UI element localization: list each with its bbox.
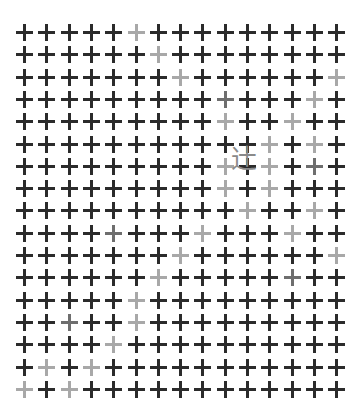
cross-mark [306, 292, 323, 309]
cross-vertical-bar [268, 136, 271, 153]
cross-vertical-bar [201, 158, 204, 175]
cross-vertical-bar [157, 381, 160, 398]
cross-vertical-bar [246, 113, 249, 130]
cross-mark [172, 24, 189, 41]
cross-mark [83, 180, 100, 197]
cross-mark [83, 225, 100, 242]
cross-mark [61, 202, 78, 219]
cross-mark [328, 359, 345, 376]
cross-vertical-bar [23, 113, 26, 130]
cross-vertical-bar [45, 180, 48, 197]
cross-vertical-bar [268, 292, 271, 309]
cross-vertical-bar [268, 158, 271, 175]
cross-mark [150, 381, 167, 398]
cross-vertical-bar [157, 336, 160, 353]
cross-vertical-bar [313, 359, 316, 376]
cross-vertical-bar [224, 180, 227, 197]
cross-mark [128, 336, 145, 353]
cross-vertical-bar [335, 381, 338, 398]
cross-mark [284, 158, 301, 175]
cross-mark [239, 69, 256, 86]
cross-mark [105, 113, 122, 130]
cross-vertical-bar [135, 91, 138, 108]
cross-mark [150, 225, 167, 242]
cross-vertical-bar [268, 336, 271, 353]
cross-mark [261, 225, 278, 242]
cross-mark [239, 91, 256, 108]
cross-mark [38, 269, 55, 286]
cross-mark [284, 202, 301, 219]
cross-vertical-bar [335, 359, 338, 376]
cross-vertical-bar [179, 247, 182, 264]
cross-vertical-bar [313, 314, 316, 331]
cross-vertical-bar [157, 91, 160, 108]
cross-vertical-bar [112, 247, 115, 264]
cross-vertical-bar [179, 91, 182, 108]
cross-mark [306, 381, 323, 398]
cross-mark [83, 292, 100, 309]
cross-vertical-bar [45, 24, 48, 41]
cross-vertical-bar [68, 69, 71, 86]
cross-vertical-bar [268, 247, 271, 264]
cross-vertical-bar [291, 381, 294, 398]
cross-mark [194, 180, 211, 197]
cross-mark [38, 136, 55, 153]
cross-mark [105, 292, 122, 309]
cross-mark [105, 225, 122, 242]
cross-vertical-bar [112, 336, 115, 353]
cross-vertical-bar [23, 247, 26, 264]
cross-vertical-bar [157, 180, 160, 197]
cross-mark [328, 202, 345, 219]
cross-mark [239, 314, 256, 331]
cross-mark [172, 136, 189, 153]
cross-mark [61, 247, 78, 264]
cross-mark [16, 247, 33, 264]
cross-vertical-bar [291, 158, 294, 175]
cross-vertical-bar [201, 202, 204, 219]
cross-mark [306, 202, 323, 219]
cross-vertical-bar [112, 225, 115, 242]
cross-vertical-bar [224, 269, 227, 286]
cross-mark [83, 381, 100, 398]
cross-vertical-bar [179, 180, 182, 197]
cross-mark [105, 269, 122, 286]
cross-mark [194, 113, 211, 130]
cross-vertical-bar [224, 336, 227, 353]
cross-vertical-bar [135, 381, 138, 398]
cross-vertical-bar [135, 269, 138, 286]
cross-vertical-bar [23, 46, 26, 63]
cross-vertical-bar [68, 91, 71, 108]
cross-mark [284, 24, 301, 41]
cross-vertical-bar [224, 136, 227, 153]
cross-mark [239, 359, 256, 376]
cross-mark [328, 46, 345, 63]
cross-mark [328, 292, 345, 309]
cross-vertical-bar [90, 269, 93, 286]
cross-vertical-bar [335, 292, 338, 309]
cross-vertical-bar [268, 91, 271, 108]
cross-vertical-bar [224, 113, 227, 130]
cross-vertical-bar [45, 69, 48, 86]
cross-vertical-bar [291, 180, 294, 197]
cross-mark [328, 180, 345, 197]
cross-vertical-bar [246, 69, 249, 86]
cross-vertical-bar [201, 69, 204, 86]
cross-vertical-bar [45, 247, 48, 264]
cross-vertical-bar [45, 136, 48, 153]
cross-mark [172, 46, 189, 63]
cross-vertical-bar [23, 158, 26, 175]
cross-mark [306, 269, 323, 286]
cross-vertical-bar [90, 46, 93, 63]
cross-vertical-bar [68, 314, 71, 331]
cross-vertical-bar [313, 247, 316, 264]
cross-vertical-bar [335, 314, 338, 331]
cross-vertical-bar [68, 113, 71, 130]
cross-vertical-bar [157, 136, 160, 153]
cross-vertical-bar [246, 359, 249, 376]
cross-mark [83, 91, 100, 108]
cross-mark [239, 292, 256, 309]
cross-mark [105, 247, 122, 264]
cross-mark [38, 113, 55, 130]
cross-mark [284, 46, 301, 63]
cross-mark [172, 269, 189, 286]
